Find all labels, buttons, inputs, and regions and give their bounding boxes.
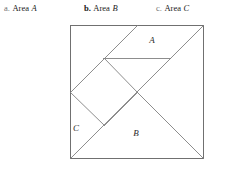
tangram-figure: ABC <box>0 0 225 169</box>
tangram-segments <box>71 26 204 159</box>
diamond-lower-right <box>105 93 138 126</box>
diamond-upper-left <box>71 59 105 93</box>
region-label-b: B <box>133 128 139 138</box>
region-label-c: C <box>73 123 80 133</box>
tangram-diagram: ABC <box>0 0 225 169</box>
region-label-a: A <box>148 35 155 45</box>
right-diagonal <box>138 93 204 159</box>
diamond-lower-left <box>71 93 105 126</box>
upper-diagonal <box>105 26 138 59</box>
diamond-upper-right <box>105 59 138 93</box>
